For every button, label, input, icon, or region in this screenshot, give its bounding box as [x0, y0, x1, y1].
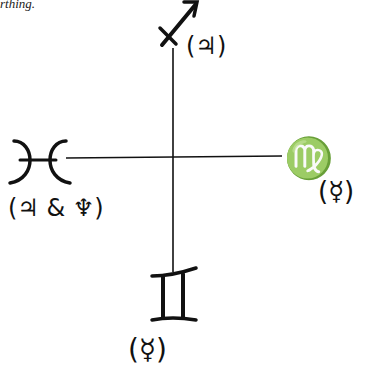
virgo-icon: ♍	[284, 138, 334, 178]
pisces-icon	[10, 141, 70, 183]
horizontal-axis	[66, 156, 282, 158]
bottom-ruler-label: (☿)	[128, 336, 167, 364]
cross-lines	[0, 0, 366, 380]
top-ruler-label: (♃)	[186, 34, 226, 58]
gemini-icon	[152, 268, 196, 320]
left-ruler-label: (♃ & ♆)	[8, 196, 104, 220]
right-ruler-label: (☿)	[318, 178, 354, 204]
